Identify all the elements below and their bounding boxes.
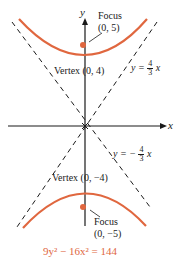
focus-top-coords: (0, 5) xyxy=(98,22,120,33)
vertex-bottom-label: Vertex (0, −4) xyxy=(52,172,108,183)
asymptote-prefix: y = xyxy=(131,62,145,73)
focus-top-point xyxy=(80,42,86,48)
focus-top-label: Focus xyxy=(98,10,122,21)
vertex-top-label: Vertex (0, 4) xyxy=(54,65,104,76)
y-axis-arrow-icon xyxy=(82,18,88,25)
focus-top-leader xyxy=(89,33,102,42)
focus-bottom-label: Focus xyxy=(94,216,118,227)
asymptote-positive-label: y = 43 x xyxy=(131,60,160,77)
y-axis-label: y xyxy=(80,7,85,18)
focus-bottom-coords: (0, −5) xyxy=(94,228,121,239)
vertex-bottom-text: Vertex xyxy=(52,172,78,183)
vertex-top-coords: (0, 4) xyxy=(83,65,105,76)
asymptote-prefix: y = − xyxy=(113,148,136,159)
vertex-top-text: Vertex xyxy=(54,65,80,76)
hyperbola-graph xyxy=(0,0,177,271)
asymptote-var: x xyxy=(156,62,160,73)
x-axis-arrow-icon xyxy=(160,123,167,129)
fraction: 43 xyxy=(147,60,153,77)
denominator: 3 xyxy=(138,155,144,163)
focus-bottom-point xyxy=(80,204,86,210)
asymptote-negative-label: y = − 43 x xyxy=(113,146,151,163)
x-axis-label: x xyxy=(168,120,173,131)
hyperbola-equation: 9y² − 16x² = 144 xyxy=(43,245,117,257)
vertex-bottom-coords: (0, −4) xyxy=(81,172,108,183)
fraction: 43 xyxy=(138,146,144,163)
asymptote-var: x xyxy=(147,148,151,159)
denominator: 3 xyxy=(147,69,153,77)
